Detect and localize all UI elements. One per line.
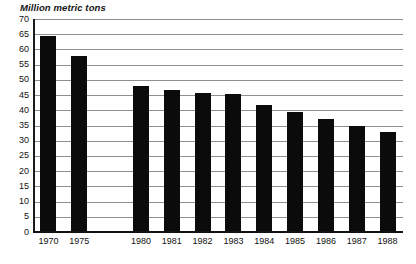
bar [164, 90, 180, 232]
bar-chart: Million metric tons 70656055504540353025… [0, 0, 416, 264]
x-tick-label: 1984 [249, 236, 280, 246]
y-tick-label: 10 [3, 197, 29, 206]
y-tick-label: 35 [3, 121, 29, 130]
y-tick-label: 45 [3, 91, 29, 100]
bar [349, 126, 365, 233]
bar [256, 105, 272, 232]
x-tick-label: 1988 [372, 236, 403, 246]
gridline [33, 141, 403, 142]
gridline [33, 80, 403, 81]
gridline [33, 65, 403, 66]
x-tick-label: 1983 [218, 236, 249, 246]
gridline [33, 49, 403, 50]
gridline [33, 171, 403, 172]
x-tick-label: 1970 [33, 236, 64, 246]
gridline [33, 95, 403, 96]
x-tick-label: 1975 [64, 236, 95, 246]
bar [225, 94, 241, 232]
gridline [33, 34, 403, 35]
bar [71, 56, 87, 232]
gridline [33, 156, 403, 157]
gridline [33, 19, 403, 20]
y-tick-label: 30 [3, 136, 29, 145]
y-tick-label: 40 [3, 106, 29, 115]
bar [287, 112, 303, 232]
y-tick-label: 5 [3, 212, 29, 221]
x-tick-label: 1986 [311, 236, 342, 246]
y-axis-line [33, 19, 35, 233]
plot-area [33, 19, 403, 232]
x-tick-label: 1987 [341, 236, 372, 246]
x-tick-label: 1980 [126, 236, 157, 246]
y-tick-label: 65 [3, 30, 29, 39]
bar [380, 132, 396, 232]
y-tick-label: 0 [3, 228, 29, 237]
x-tick-label: 1985 [280, 236, 311, 246]
y-tick-label: 50 [3, 75, 29, 84]
gridline [33, 217, 403, 218]
x-axis-line [33, 231, 403, 233]
gridline [33, 110, 403, 111]
x-tick-label: 1981 [156, 236, 187, 246]
gridline [33, 186, 403, 187]
y-tick-label: 55 [3, 60, 29, 69]
gridline [33, 126, 403, 127]
bar [133, 86, 149, 232]
bar [40, 36, 56, 232]
gridline [33, 202, 403, 203]
chart-title: Million metric tons [20, 2, 106, 13]
x-tick-label: 1982 [187, 236, 218, 246]
bar [318, 119, 334, 232]
y-tick-label: 60 [3, 45, 29, 54]
y-tick-label: 25 [3, 151, 29, 160]
y-tick-label: 70 [3, 15, 29, 24]
y-tick-label: 20 [3, 167, 29, 176]
x-axis-labels: 1970197519801981198219831984198519861987… [33, 236, 403, 252]
y-tick-label: 15 [3, 182, 29, 191]
bar [195, 93, 211, 232]
y-axis-labels: 7065605550454035302520151050 [0, 19, 29, 232]
